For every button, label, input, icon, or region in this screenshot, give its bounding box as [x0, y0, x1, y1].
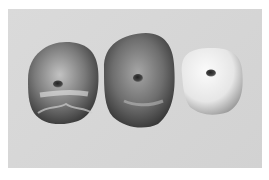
bead-hole [206, 70, 216, 77]
photo-background [8, 9, 262, 168]
beads-illustration [8, 9, 262, 168]
right-bead [182, 48, 243, 115]
bead-hole [53, 81, 63, 88]
bead-hole [133, 74, 143, 82]
middle-bead [104, 33, 175, 128]
left-bead [28, 42, 98, 124]
